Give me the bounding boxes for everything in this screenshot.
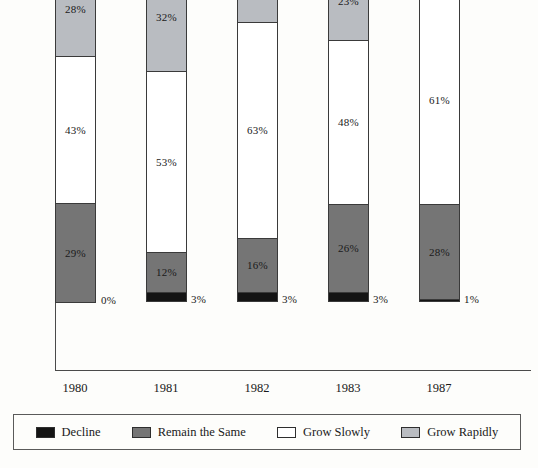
segment-grow-slowly-1983: 48% <box>328 40 369 205</box>
bar-1981: 32%53%12%3% <box>146 0 187 302</box>
legend-swatch-icon <box>401 427 420 438</box>
segment-decline-1982: 3% <box>237 292 278 302</box>
segment-decline-1981: 3% <box>146 292 187 302</box>
segment-value-label: 3% <box>282 294 297 305</box>
legend-label: Grow Slowly <box>303 425 370 440</box>
legend-swatch-icon <box>36 427 55 438</box>
x-tick-1987: 1987 <box>409 381 469 396</box>
segment-value-label: 29% <box>65 248 86 259</box>
stacked-bar-chart: 28%43%29%0%32%53%12%3%18%63%16%3%23%48%2… <box>0 0 538 400</box>
segment-grow-slowly-1981: 53% <box>146 71 187 253</box>
legend-swatch-icon <box>277 427 296 438</box>
bar-1987: 10%61%28%1% <box>419 0 460 302</box>
legend-item-remain-the-same: Remain the Same <box>132 425 246 440</box>
segment-remain-the-same-1983: 26% <box>328 204 369 293</box>
segment-value-label: 12% <box>156 267 177 278</box>
segment-value-label: 48% <box>338 117 359 128</box>
x-tick-1981: 1981 <box>136 381 196 396</box>
segment-value-label: 32% <box>156 12 177 23</box>
segment-grow-rapidly-1982: 18% <box>237 0 278 23</box>
segment-value-label: 26% <box>338 243 359 254</box>
segment-decline-1983: 3% <box>328 292 369 302</box>
segment-value-label: 53% <box>156 157 177 168</box>
segment-value-label: 3% <box>373 294 388 305</box>
legend-item-decline: Decline <box>36 425 101 440</box>
legend-swatch-icon <box>132 427 151 438</box>
bar-1982: 18%63%16%3% <box>237 0 278 302</box>
segment-value-label: 63% <box>247 125 268 136</box>
segment-grow-slowly-1980: 43% <box>55 56 96 204</box>
segment-grow-rapidly-1980: 28% <box>55 0 96 57</box>
chart-legend: DeclineRemain the SameGrow SlowlyGrow Ra… <box>13 414 521 450</box>
segment-grow-slowly-1982: 63% <box>237 22 278 239</box>
legend-item-grow-slowly: Grow Slowly <box>277 425 370 440</box>
x-tick-1980: 1980 <box>45 381 105 396</box>
segment-value-label: 0% <box>101 295 116 306</box>
segment-value-label: 61% <box>429 95 450 106</box>
segment-remain-the-same-1980: 29% <box>55 203 96 303</box>
segment-value-label: 28% <box>429 247 450 258</box>
segment-grow-rapidly-1981: 32% <box>146 0 187 72</box>
segment-value-label: 43% <box>65 125 86 136</box>
legend-item-grow-rapidly: Grow Rapidly <box>401 425 498 440</box>
segment-value-label: 23% <box>338 0 359 7</box>
legend-label: Decline <box>62 425 101 440</box>
segment-value-label: 3% <box>191 294 206 305</box>
bar-1983: 23%48%26%3% <box>328 0 369 302</box>
segment-value-label: 1% <box>464 294 479 305</box>
bar-1980: 28%43%29%0% <box>55 0 96 302</box>
segment-grow-slowly-1987: 61% <box>419 0 460 205</box>
x-tick-1983: 1983 <box>318 381 378 396</box>
legend-label: Remain the Same <box>158 425 246 440</box>
segment-value-label: 16% <box>247 260 268 271</box>
segment-grow-rapidly-1983: 23% <box>328 0 369 41</box>
legend-label: Grow Rapidly <box>427 425 498 440</box>
segment-remain-the-same-1987: 28% <box>419 204 460 300</box>
segment-remain-the-same-1981: 12% <box>146 252 187 293</box>
x-tick-1982: 1982 <box>227 381 287 396</box>
axis-baseline <box>55 370 531 371</box>
segment-value-label: 28% <box>65 4 86 15</box>
segment-decline-1987: 1% <box>419 299 460 302</box>
segment-remain-the-same-1982: 16% <box>237 238 278 293</box>
